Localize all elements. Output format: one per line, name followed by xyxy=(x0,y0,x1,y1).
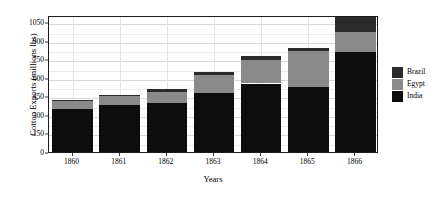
bar-segment-india-1861[interactable] xyxy=(99,105,140,152)
legend-item-brazil[interactable]: Brazil xyxy=(392,66,444,78)
legend-label-india: India xyxy=(407,92,422,100)
y-tick-label: 150 xyxy=(33,131,44,139)
bar-1861[interactable] xyxy=(99,16,140,152)
y-tick-label: 900 xyxy=(33,38,44,46)
bar-segment-egypt-1861[interactable] xyxy=(99,96,140,105)
bar-segment-brazil-1860[interactable] xyxy=(52,100,93,101)
chart-figure: Cotton Exports (millions lbs) 0150300450… xyxy=(0,0,446,197)
x-tick-mark xyxy=(72,153,73,156)
bar-segment-india-1863[interactable] xyxy=(194,93,235,152)
bar-segment-india-1860[interactable] xyxy=(52,109,93,152)
bar-segment-egypt-1862[interactable] xyxy=(147,92,188,104)
x-axis-title: Years xyxy=(48,174,378,184)
x-tick-mark xyxy=(119,153,120,156)
bar-segment-brazil-1861[interactable] xyxy=(99,95,140,97)
legend-swatch-brazil xyxy=(392,67,403,78)
x-tick-label-1866: 1866 xyxy=(347,158,362,166)
bar-segment-egypt-1863[interactable] xyxy=(194,75,235,93)
bar-segment-india-1865[interactable] xyxy=(288,87,329,152)
legend-item-india[interactable]: India xyxy=(392,90,444,102)
chart-legend: BrazilEgyptIndia xyxy=(392,66,444,102)
x-tick-mark xyxy=(213,153,214,156)
x-tick-mark xyxy=(354,153,355,156)
bar-segment-brazil-1864[interactable] xyxy=(241,56,282,60)
bar-segment-egypt-1864[interactable] xyxy=(241,60,282,83)
x-tick-label-1860: 1860 xyxy=(64,158,79,166)
bar-1864[interactable] xyxy=(241,16,282,152)
x-tick-label-1865: 1865 xyxy=(300,158,315,166)
legend-item-egypt[interactable]: Egypt xyxy=(392,78,444,90)
bar-segment-brazil-1863[interactable] xyxy=(194,72,235,76)
legend-label-egypt: Egypt xyxy=(407,80,425,88)
bar-segment-egypt-1866[interactable] xyxy=(335,32,376,52)
plot-panel xyxy=(48,16,378,153)
bar-1865[interactable] xyxy=(288,16,329,152)
y-tick-label: 450 xyxy=(33,94,44,102)
x-tick-label-1861: 1861 xyxy=(111,158,126,166)
y-axis: 01503004506007509001050 xyxy=(24,16,48,153)
y-tick-label: 750 xyxy=(33,57,44,65)
bar-segment-brazil-1865[interactable] xyxy=(288,48,329,52)
x-tick-mark xyxy=(166,153,167,156)
x-tick-mark xyxy=(307,153,308,156)
bar-segment-egypt-1860[interactable] xyxy=(52,101,93,109)
y-tick-label: 300 xyxy=(33,112,44,120)
x-tick-label-1863: 1863 xyxy=(206,158,221,166)
bar-segment-brazil-1862[interactable] xyxy=(147,89,188,91)
x-tick-mark xyxy=(260,153,261,156)
bar-segment-india-1864[interactable] xyxy=(241,84,282,153)
legend-swatch-india xyxy=(392,91,403,102)
legend-label-brazil: Brazil xyxy=(407,68,425,76)
bar-segment-brazil-1866[interactable] xyxy=(335,17,376,32)
y-tick-label: 1050 xyxy=(29,20,44,28)
bar-segment-india-1862[interactable] xyxy=(147,103,188,152)
bar-segment-india-1866[interactable] xyxy=(335,52,376,152)
x-axis: 1860186118621863186418651866 xyxy=(48,153,378,173)
legend-swatch-egypt xyxy=(392,79,403,90)
bar-1863[interactable] xyxy=(194,16,235,152)
y-tick-label: 0 xyxy=(40,149,44,157)
x-tick-label-1864: 1864 xyxy=(253,158,268,166)
bar-1860[interactable] xyxy=(52,16,93,152)
bar-1862[interactable] xyxy=(147,16,188,152)
bar-segment-egypt-1865[interactable] xyxy=(288,51,329,86)
bar-1866[interactable] xyxy=(335,16,376,152)
x-tick-label-1862: 1862 xyxy=(158,158,173,166)
y-tick-label: 600 xyxy=(33,75,44,83)
